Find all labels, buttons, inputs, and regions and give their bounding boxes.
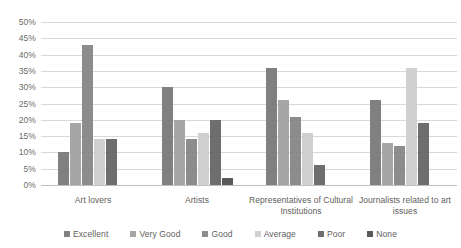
bar[interactable] <box>394 146 405 185</box>
y-axis-tick-label: 45% <box>19 34 36 43</box>
bar-group <box>249 0 353 192</box>
chart-legend: ExcellentVery GoodGoodAveragePoorNone <box>0 224 461 244</box>
bar[interactable] <box>370 100 381 185</box>
x-axis-label: Journalists related to art issues <box>353 192 457 222</box>
bar[interactable] <box>222 178 233 185</box>
bar[interactable] <box>278 100 289 185</box>
y-axis: 50%45%40%35%30%25%20%15%10%5%0% <box>0 0 40 192</box>
legend-label: Poor <box>327 230 345 239</box>
bar[interactable] <box>94 139 105 185</box>
bar[interactable] <box>82 45 93 185</box>
legend-label: Average <box>264 230 296 239</box>
bar[interactable] <box>174 120 185 185</box>
legend-swatch-icon <box>202 231 208 237</box>
bar[interactable] <box>290 117 301 185</box>
bar[interactable] <box>382 143 393 185</box>
legend-swatch-icon <box>318 231 324 237</box>
plot-area: 50%45%40%35%30%25%20%15%10%5%0% <box>0 0 461 192</box>
bar[interactable] <box>314 165 325 185</box>
y-axis-tick-label: 10% <box>19 148 36 157</box>
legend-label: None <box>376 230 397 239</box>
bar[interactable] <box>58 152 69 185</box>
bar[interactable] <box>210 120 221 185</box>
legend-label: Good <box>211 230 232 239</box>
y-axis-tick-label: 35% <box>19 66 36 75</box>
bar[interactable] <box>406 68 417 185</box>
legend-item[interactable]: Very Good <box>130 230 180 239</box>
legend-swatch-icon <box>64 231 70 237</box>
y-axis-tick-label: 40% <box>19 50 36 59</box>
x-axis-labels: Art loversArtistsRepresentatives of Cult… <box>41 192 457 222</box>
y-axis-tick-label: 25% <box>19 99 36 108</box>
y-axis-tick-label: 20% <box>19 115 36 124</box>
x-axis-label: Art lovers <box>41 192 145 222</box>
y-axis-tick-label: 5% <box>24 164 37 173</box>
bar[interactable] <box>418 123 429 185</box>
x-axis-label: Representatives of Cultural Institutions <box>249 192 353 222</box>
bar[interactable] <box>186 139 197 185</box>
bar-group <box>145 0 249 192</box>
legend-label: Excellent <box>73 230 108 239</box>
y-axis-tick-label: 30% <box>19 83 36 92</box>
bar-chart: 50%45%40%35%30%25%20%15%10%5%0% Art love… <box>0 0 461 248</box>
y-axis-tick-label: 50% <box>19 18 36 27</box>
legend-swatch-icon <box>367 231 373 237</box>
legend-item[interactable]: Average <box>255 230 296 239</box>
bar[interactable] <box>198 133 209 185</box>
legend-swatch-icon <box>255 231 261 237</box>
bar[interactable] <box>302 133 313 185</box>
bar[interactable] <box>266 68 277 185</box>
bar-group <box>353 0 457 192</box>
y-axis-tick-label: 0% <box>24 181 37 190</box>
legend-item[interactable]: Excellent <box>64 230 108 239</box>
legend-swatch-icon <box>130 231 136 237</box>
y-axis-tick-label: 15% <box>19 132 36 141</box>
bars-layer <box>41 0 457 192</box>
x-axis-label: Artists <box>145 192 249 222</box>
bar-group <box>41 0 145 192</box>
bar[interactable] <box>70 123 81 185</box>
legend-item[interactable]: None <box>367 230 397 239</box>
bar[interactable] <box>106 139 117 185</box>
legend-item[interactable]: Poor <box>318 230 345 239</box>
legend-item[interactable]: Good <box>202 230 232 239</box>
legend-label: Very Good <box>139 230 180 239</box>
bar[interactable] <box>162 87 173 185</box>
